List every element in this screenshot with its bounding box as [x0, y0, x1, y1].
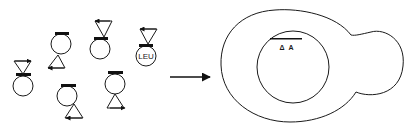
- nucleus-circle: [257, 31, 329, 103]
- triangle-icon: [140, 29, 157, 44]
- cell-bar: [61, 84, 76, 87]
- leu-label: LEU: [138, 52, 154, 61]
- cell-bar: [108, 71, 123, 74]
- cell-bar: [55, 32, 69, 35]
- cell-circle: [13, 76, 33, 96]
- cell-1: [13, 61, 33, 96]
- cell-outline: [221, 10, 403, 122]
- cell-circle: [51, 34, 71, 54]
- nucleus-marker-bar: [270, 38, 302, 40]
- triangle-icon: [14, 61, 31, 74]
- cell-circle: [57, 86, 77, 106]
- triangle-icon: [95, 21, 112, 37]
- diagram-canvas: LEU Δ A: [0, 0, 412, 131]
- cell-3: [90, 21, 112, 59]
- cell-circle: [105, 74, 125, 94]
- triangle-icon: [107, 94, 124, 108]
- cell-5: [57, 84, 83, 118]
- triangle-icon: [48, 55, 65, 68]
- cell-bar: [94, 37, 108, 40]
- cell-2: [48, 32, 71, 68]
- budding-cell: Δ A: [221, 10, 403, 122]
- cell-6: [105, 71, 125, 108]
- cell-circle: [90, 39, 110, 59]
- cell-bar: [139, 44, 153, 47]
- delta-a-label: Δ A: [279, 44, 294, 51]
- cell-4-leu: LEU: [136, 29, 157, 66]
